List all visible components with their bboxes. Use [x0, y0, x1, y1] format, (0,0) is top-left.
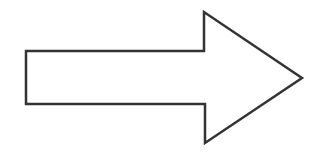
right-arrow-icon [26, 12, 302, 143]
arrow-diagram [0, 0, 317, 158]
diagram-canvas [0, 0, 317, 158]
